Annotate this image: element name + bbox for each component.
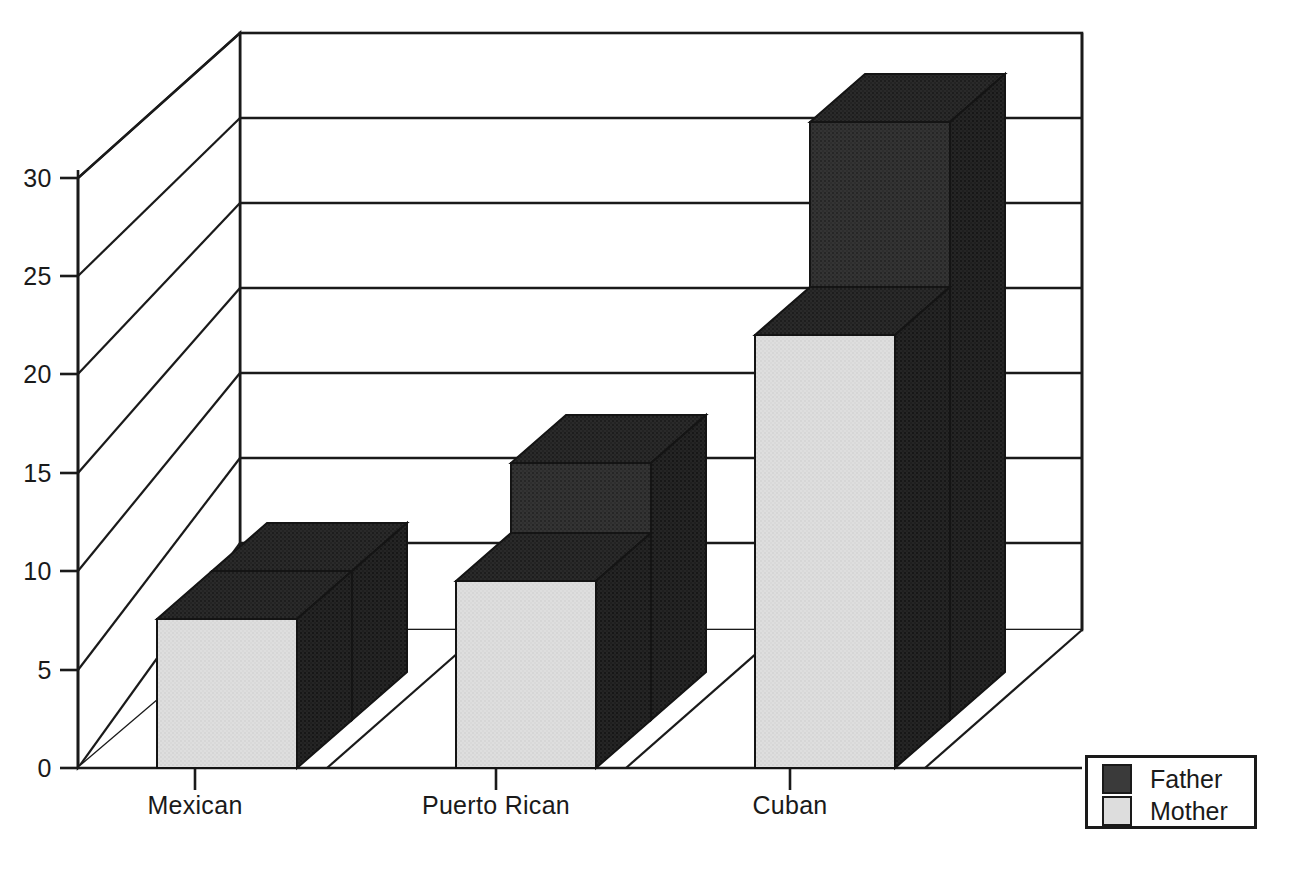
bar-mexican-mother: [157, 571, 352, 768]
y-tick-label-20: 20: [6, 362, 52, 387]
y-tick-label-30: 30: [6, 166, 52, 191]
y-tick-label-15: 15: [6, 461, 52, 486]
x-category-label-mexican: Mexican: [95, 793, 295, 818]
y-tick-label-0: 0: [6, 756, 52, 781]
x-category-label-cuban: Cuban: [690, 793, 890, 818]
legend-item-father: Father: [1102, 764, 1222, 794]
y-tick-label-10: 10: [6, 559, 52, 584]
legend-swatch-father: [1102, 764, 1132, 794]
chart-canvas: 30 25 20 15 10 5 0 Mexican Puerto Rican …: [0, 0, 1295, 871]
y-tick-label-5: 5: [6, 658, 52, 683]
legend-label-mother: Mother: [1150, 799, 1228, 824]
legend-item-mother: Mother: [1102, 796, 1228, 826]
bar-puerto-rican-mother: [456, 533, 651, 768]
legend-label-father: Father: [1150, 767, 1222, 792]
x-category-label-puerto-rican: Puerto Rican: [381, 793, 611, 818]
bar-cuban-mother: [755, 287, 950, 768]
chart-legend: Father Mother: [1085, 755, 1257, 829]
y-axis-ticks: [60, 178, 78, 768]
x-axis-ticks: [195, 768, 790, 790]
y-tick-label-25: 25: [6, 264, 52, 289]
legend-swatch-mother: [1102, 796, 1132, 826]
bar-chart-3d: [0, 0, 1295, 871]
